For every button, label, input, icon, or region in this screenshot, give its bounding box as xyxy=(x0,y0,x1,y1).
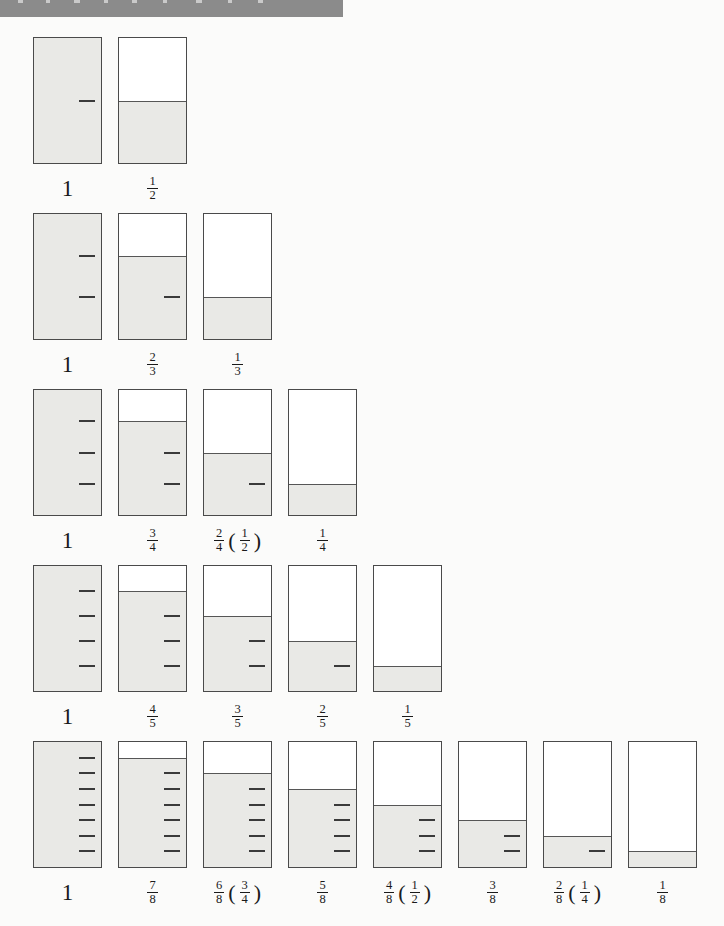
whole-number-label: 1 xyxy=(62,881,74,904)
fraction-label: 23 xyxy=(147,351,157,379)
glass-label: 1 xyxy=(33,340,102,389)
measuring-glass-3-8 xyxy=(458,741,527,868)
tick-mark xyxy=(334,804,350,806)
fill-level xyxy=(119,101,186,164)
fraction-diagram: 1121231313424(12)1414535251517868(34)584… xyxy=(33,37,713,917)
glass-cell: 23 xyxy=(118,213,187,389)
fraction-numerator: 3 xyxy=(487,879,497,894)
glass-cell: 68(34) xyxy=(203,741,272,917)
glass-label: 1 xyxy=(33,692,102,741)
glass-cell: 1 xyxy=(33,389,102,565)
fraction-label: 24 xyxy=(214,527,224,555)
tick-mark xyxy=(79,615,95,617)
fraction-numerator: 1 xyxy=(402,703,412,718)
glass-label: 34 xyxy=(118,516,187,565)
tick-mark xyxy=(79,100,95,102)
fraction-label: 48 xyxy=(384,879,394,907)
fill-level xyxy=(204,616,271,691)
cutoff-text-remnant xyxy=(196,0,202,3)
glass-label: 45 xyxy=(118,692,187,741)
whole-number-label: 1 xyxy=(62,353,74,376)
measuring-glass-3-5 xyxy=(203,565,272,692)
tick-mark xyxy=(164,665,180,667)
glass-label: 13 xyxy=(203,340,272,389)
cutoff-text-remnant xyxy=(74,0,80,3)
cutoff-text-remnant xyxy=(46,0,50,3)
measuring-glass-4-4 xyxy=(33,389,102,516)
tick-mark xyxy=(419,819,435,821)
fill-level xyxy=(34,214,101,339)
fill-level xyxy=(374,666,441,691)
fraction-numerator: 3 xyxy=(240,879,250,894)
whole-number-label: 1 xyxy=(62,529,74,552)
fill-level xyxy=(289,484,356,515)
fraction-label: 13 xyxy=(232,351,242,379)
tick-mark xyxy=(334,835,350,837)
fraction-denominator: 8 xyxy=(487,893,497,907)
glass-label: 24(12) xyxy=(203,516,272,565)
open-paren: ( xyxy=(228,530,235,552)
measuring-glass-1-4 xyxy=(288,389,357,516)
tick-mark xyxy=(79,788,95,790)
glass-cell: 48(12) xyxy=(373,741,442,917)
fraction-numerator: 1 xyxy=(410,879,420,894)
glass-label: 23 xyxy=(118,340,187,389)
glass-cell: 1 xyxy=(33,741,102,917)
tick-mark xyxy=(79,850,95,852)
glass-cell: 78 xyxy=(118,741,187,917)
fraction-numerator: 1 xyxy=(147,175,157,190)
tick-mark xyxy=(249,788,265,790)
cutoff-text-remnant xyxy=(228,0,232,3)
fraction-numerator: 3 xyxy=(232,703,242,718)
tick-mark xyxy=(249,665,265,667)
tick-mark xyxy=(164,772,180,774)
fraction-label: 34 xyxy=(240,879,250,907)
fill-level xyxy=(34,566,101,691)
fraction-denominator: 4 xyxy=(214,541,224,555)
fraction-denominator: 2 xyxy=(240,541,250,555)
fraction-denominator: 4 xyxy=(317,541,327,555)
fraction-numerator: 6 xyxy=(214,879,224,894)
tick-mark xyxy=(164,483,180,485)
fraction-label: 14 xyxy=(580,879,590,907)
glass-cell: 35 xyxy=(203,565,272,741)
tick-mark xyxy=(249,850,265,852)
fraction-label: 78 xyxy=(147,879,157,907)
fraction-label: 15 xyxy=(402,703,412,731)
cutoff-text-remnant xyxy=(258,0,263,3)
tick-mark xyxy=(249,804,265,806)
fraction-denominator: 5 xyxy=(402,717,412,731)
tick-mark xyxy=(164,615,180,617)
tick-mark xyxy=(164,296,180,298)
glass-cell: 38 xyxy=(458,741,527,917)
close-paren: ) xyxy=(594,882,601,904)
fraction-denominator: 8 xyxy=(147,893,157,907)
tick-mark xyxy=(79,296,95,298)
tick-mark xyxy=(589,850,605,852)
glass-cell: 28(14) xyxy=(543,741,612,917)
tick-mark xyxy=(79,483,95,485)
tick-mark xyxy=(79,757,95,759)
glass-cell: 1 xyxy=(33,37,102,213)
measuring-glass-4-8 xyxy=(373,741,442,868)
tick-mark xyxy=(164,452,180,454)
fraction-denominator: 4 xyxy=(147,541,157,555)
fraction-denominator: 4 xyxy=(580,893,590,907)
tick-mark xyxy=(79,665,95,667)
open-paren: ( xyxy=(398,882,405,904)
measuring-glass-2-5 xyxy=(288,565,357,692)
tick-mark xyxy=(79,835,95,837)
fraction-row-fifths: 145352515 xyxy=(33,565,713,741)
close-paren: ) xyxy=(254,882,261,904)
fraction-label: 12 xyxy=(410,879,420,907)
glass-cell: 15 xyxy=(373,565,442,741)
measuring-glass-3-3 xyxy=(33,213,102,340)
fraction-denominator: 5 xyxy=(317,717,327,731)
tick-mark xyxy=(164,819,180,821)
glass-label: 15 xyxy=(373,692,442,741)
tick-mark xyxy=(79,452,95,454)
glass-label: 1 xyxy=(33,164,102,213)
glass-label: 68(34) xyxy=(203,868,272,917)
tick-mark xyxy=(79,590,95,592)
fraction-label: 12 xyxy=(147,175,157,203)
